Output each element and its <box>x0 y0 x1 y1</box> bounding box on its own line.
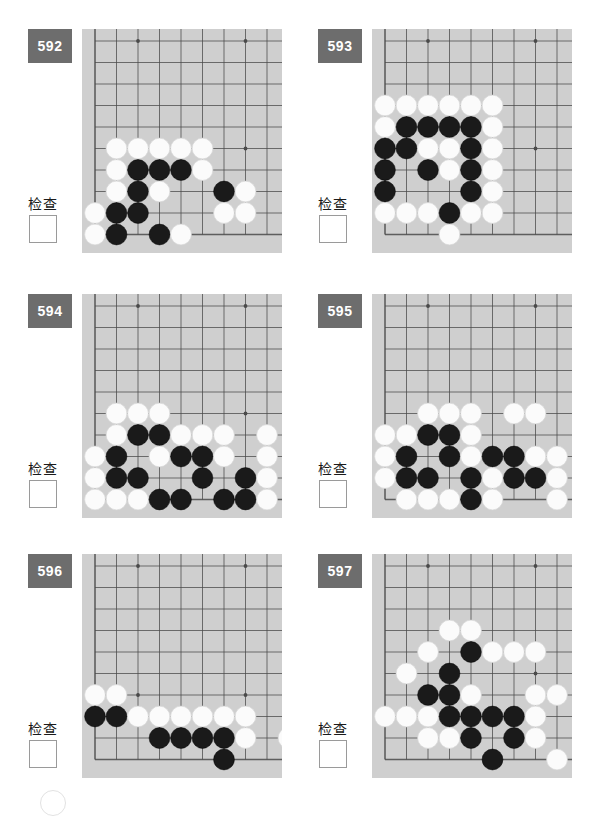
problem-number-badge: 597 <box>318 554 362 588</box>
check-label: 检查 <box>318 193 348 213</box>
problem-596: 596检查 <box>20 550 290 782</box>
check-checkbox[interactable] <box>319 740 347 768</box>
problem-593: 593检查 <box>310 25 580 257</box>
check-label: 检查 <box>318 718 348 738</box>
problem-number-badge: 596 <box>28 554 72 588</box>
check-label: 检查 <box>28 193 58 213</box>
go-board[interactable] <box>372 294 572 518</box>
go-board[interactable] <box>82 294 282 518</box>
problem-594: 594检查 <box>20 290 290 522</box>
problem-number-badge: 592 <box>28 29 72 63</box>
check-checkbox[interactable] <box>29 740 57 768</box>
problem-595: 595检查 <box>310 290 580 522</box>
check-checkbox[interactable] <box>29 215 57 243</box>
go-board[interactable] <box>82 554 282 778</box>
problem-number-badge: 595 <box>318 294 362 328</box>
check-label: 检查 <box>318 458 348 478</box>
check-label: 检查 <box>28 718 58 738</box>
go-board[interactable] <box>372 29 572 253</box>
go-board[interactable] <box>372 554 572 778</box>
problem-number-badge: 593 <box>318 29 362 63</box>
check-checkbox[interactable] <box>319 480 347 508</box>
check-checkbox[interactable] <box>319 215 347 243</box>
problem-number-badge: 594 <box>28 294 72 328</box>
footer-circle-mark <box>40 790 66 816</box>
problem-597: 597检查 <box>310 550 580 782</box>
check-checkbox[interactable] <box>29 480 57 508</box>
problem-592: 592检查 <box>20 25 290 257</box>
check-label: 检查 <box>28 458 58 478</box>
go-board[interactable] <box>82 29 282 253</box>
